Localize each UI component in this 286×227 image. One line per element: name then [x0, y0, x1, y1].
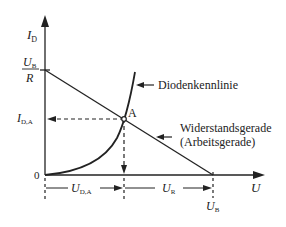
x-axis-label: U	[251, 180, 262, 195]
diode-pointer-arrow-icon	[136, 82, 144, 88]
x-axis	[45, 171, 265, 179]
point-a-label: A	[128, 106, 137, 120]
diode-curve-label: Diodenkennlinie	[158, 78, 238, 92]
load-line-label-1: Widerstandsgerade	[180, 121, 271, 135]
y-axis	[41, 15, 49, 175]
ur-label: UR	[162, 181, 176, 196]
ida-label: ID,A	[16, 111, 33, 126]
origin-label: 0	[34, 169, 40, 181]
y-axis-arrow-icon	[41, 15, 49, 27]
ub-over-r-numerator: UB	[23, 55, 37, 70]
uda-right-arrow-icon	[114, 185, 123, 191]
diode-curve-pointer	[136, 82, 154, 88]
load-line-pointer	[156, 134, 172, 140]
ida-arrow-icon	[47, 116, 56, 122]
ub-label: UB	[206, 199, 220, 214]
y-axis-label: ID	[26, 27, 37, 44]
load-pointer-arrow-icon	[156, 134, 164, 140]
uda-label: UD,A	[71, 181, 92, 196]
ur-right-arrow-icon	[203, 185, 212, 191]
x-axis-arrow-icon	[253, 171, 265, 179]
diagram-canvas: ID UB R ID,A 0 A Diodenkennlinie Widerst…	[0, 0, 286, 227]
diode-curve	[45, 72, 135, 175]
uda-down-arrow-icon	[121, 165, 127, 174]
load-line-label-2: (Arbeitsgerade)	[180, 135, 255, 149]
ub-over-r-denominator: R	[25, 71, 34, 85]
operating-point-a	[122, 117, 127, 122]
